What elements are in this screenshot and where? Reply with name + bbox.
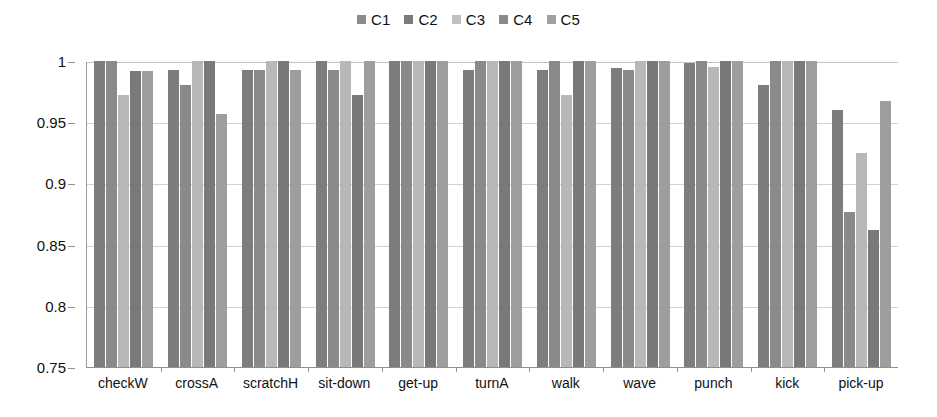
bar-c5-get-up <box>437 61 448 367</box>
legend-item-c5: C5 <box>547 12 580 27</box>
bar-c1-checkw <box>94 61 105 367</box>
bar-c4-checkw <box>130 71 141 367</box>
chart-legend: C1C2C3C4C5 <box>0 12 937 27</box>
x-axis-label-turna: turnA <box>455 375 529 391</box>
bar-c1-kick <box>758 85 769 367</box>
bar-group-sit-down <box>308 62 382 367</box>
bar-c5-scratchh <box>290 70 301 367</box>
bar-groups <box>87 62 898 367</box>
bar-c5-punch <box>732 61 743 367</box>
bar-c2-wave <box>623 70 634 367</box>
bar-c2-scratchh <box>254 70 265 367</box>
bar-c4-turna <box>499 61 510 367</box>
legend-item-c2: C2 <box>404 12 437 27</box>
bar-c3-scratchh <box>266 61 277 367</box>
bar-c3-crossa <box>192 61 203 367</box>
bar-c5-pick-up <box>880 101 891 367</box>
x-axis-label-pick-up: pick-up <box>824 375 898 391</box>
bar-c2-sit-down <box>328 70 339 367</box>
x-axis-tick-mark <box>529 367 530 372</box>
bar-c4-punch <box>720 61 731 367</box>
x-axis-tick-mark <box>751 367 752 372</box>
bar-c4-get-up <box>425 61 436 367</box>
bar-c4-walk <box>573 61 584 367</box>
bar-c2-checkw <box>106 61 117 367</box>
x-axis-tick-mark <box>234 367 235 372</box>
bar-c3-sit-down <box>340 61 351 367</box>
bar-c4-scratchh <box>278 61 289 367</box>
bar-c2-get-up <box>401 61 412 367</box>
y-axis-tick-label: 0.85 <box>37 238 66 253</box>
bar-c4-kick <box>794 61 805 367</box>
bar-group-turna <box>456 62 530 367</box>
y-axis-tick-mark <box>68 123 75 124</box>
chart-root: C1C2C3C4C5 10.950.90.850.80.75 checkWcro… <box>0 0 937 417</box>
bar-c1-get-up <box>389 61 400 367</box>
bar-c4-pick-up <box>868 230 879 367</box>
legend-item-c1: C1 <box>357 12 390 27</box>
bar-c1-wave <box>611 68 622 367</box>
bar-c3-pick-up <box>856 153 867 367</box>
x-axis-tick-mark <box>824 367 825 372</box>
legend-item-label: C2 <box>418 12 437 27</box>
bar-group-punch <box>677 62 751 367</box>
x-axis-label-checkw: checkW <box>86 375 160 391</box>
bar-group-wave <box>603 62 677 367</box>
bar-c2-kick <box>770 61 781 367</box>
bar-group-scratchh <box>234 62 308 367</box>
bar-group-walk <box>529 62 603 367</box>
y-axis-tick-label: 0.95 <box>37 115 66 130</box>
bar-c5-turna <box>511 61 522 367</box>
y-axis-tick-label: 1 <box>58 54 66 69</box>
bar-group-checkw <box>87 62 161 367</box>
x-axis-label-get-up: get-up <box>381 375 455 391</box>
x-axis-label-walk: walk <box>529 375 603 391</box>
legend-swatch-icon <box>547 15 556 24</box>
legend-item-label: C5 <box>561 12 580 27</box>
bar-c3-wave <box>635 61 646 367</box>
bar-c3-walk <box>561 95 572 367</box>
y-axis-tick-mark <box>68 62 75 63</box>
bar-c3-kick <box>782 61 793 367</box>
y-axis-tick-label: 0.9 <box>45 176 66 191</box>
bar-c2-pick-up <box>844 212 855 367</box>
x-axis-label-sit-down: sit-down <box>307 375 381 391</box>
bar-c4-crossa <box>204 61 215 367</box>
bar-c5-kick <box>806 61 817 367</box>
bar-c3-checkw <box>118 95 129 367</box>
y-axis-tick-mark <box>68 246 75 247</box>
bar-c1-scratchh <box>242 70 253 367</box>
bar-c5-walk <box>585 61 596 367</box>
bar-c4-wave <box>647 61 658 367</box>
bar-c5-crossa <box>216 114 227 367</box>
legend-swatch-icon <box>357 15 366 24</box>
bar-group-get-up <box>382 62 456 367</box>
x-axis-tick-mark <box>603 367 604 372</box>
x-axis-label-kick: kick <box>750 375 824 391</box>
bar-c3-turna <box>487 61 498 367</box>
legend-item-label: C3 <box>466 12 485 27</box>
bar-group-pick-up <box>824 62 898 367</box>
bar-group-kick <box>751 62 825 367</box>
legend-swatch-icon <box>452 15 461 24</box>
bar-c4-sit-down <box>352 95 363 367</box>
bar-c3-punch <box>708 67 719 367</box>
legend-swatch-icon <box>404 15 413 24</box>
bar-c5-checkw <box>142 71 153 367</box>
bar-c5-sit-down <box>364 61 375 367</box>
x-axis-label-punch: punch <box>677 375 751 391</box>
legend-item-label: C4 <box>513 12 532 27</box>
y-axis-tick-mark <box>68 184 75 185</box>
x-axis-label-wave: wave <box>603 375 677 391</box>
legend-swatch-icon <box>499 15 508 24</box>
y-axis: 10.950.90.850.80.75 <box>0 0 78 417</box>
x-axis-label-crossa: crossA <box>160 375 234 391</box>
x-axis-tick-mark <box>456 367 457 372</box>
bar-c3-get-up <box>413 61 424 367</box>
legend-item-c4: C4 <box>499 12 532 27</box>
bar-c2-turna <box>475 61 486 367</box>
x-axis-labels: checkWcrossAscratchHsit-downget-upturnAw… <box>86 375 898 391</box>
bar-c1-crossa <box>168 70 179 367</box>
x-axis-tick-mark <box>677 367 678 372</box>
bar-c2-walk <box>549 61 560 367</box>
